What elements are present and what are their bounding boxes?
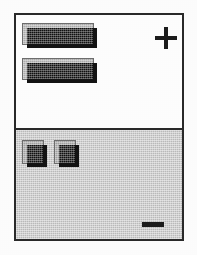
panel-frame: + − xyxy=(14,13,184,241)
wide-bar-top xyxy=(22,23,94,45)
wide-bar-bottom xyxy=(22,58,94,80)
plus-sign: + xyxy=(155,27,177,49)
minus-sign: − xyxy=(142,222,164,227)
plus-sign-vertical-stroke xyxy=(164,27,168,49)
minus-sign-glyph: − xyxy=(142,222,143,223)
small-square-right xyxy=(54,140,76,164)
plus-sign-glyph: + xyxy=(155,27,156,28)
upper-white-region: + xyxy=(16,15,182,128)
figure-root: + − xyxy=(0,0,197,255)
lower-shaded-region: − xyxy=(16,130,182,239)
small-square-left xyxy=(22,140,44,164)
